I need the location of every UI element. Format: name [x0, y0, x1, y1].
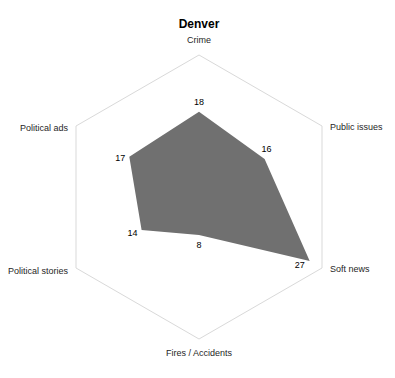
- data-label: 27: [295, 260, 305, 270]
- axis-label-soft-news: Soft news: [330, 264, 370, 274]
- data-label: 17: [115, 153, 125, 163]
- axis-label-political-ads: Political ads: [20, 123, 69, 133]
- chart-title: Denver: [179, 17, 220, 31]
- axis-label-political-stories: Political stories: [8, 266, 69, 276]
- radar-chart: Denver CrimePublic issuesSoft newsFires …: [0, 0, 395, 378]
- data-label: 14: [128, 228, 138, 238]
- data-label: 18: [194, 97, 204, 107]
- axis-label-public-issues: Public issues: [330, 122, 383, 132]
- data-area-denver: [129, 112, 309, 261]
- data-label: 16: [262, 144, 272, 154]
- data-label: 8: [196, 240, 201, 250]
- axis-label-fires-accidents: Fires / Accidents: [166, 348, 233, 358]
- axis-label-crime: Crime: [187, 35, 211, 45]
